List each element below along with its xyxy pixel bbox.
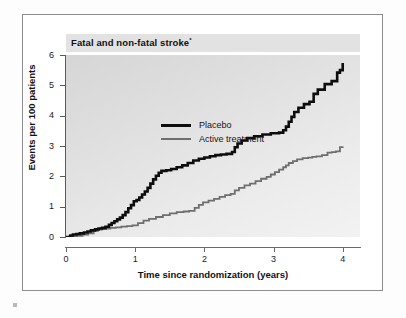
- y-tick-mark: [60, 207, 65, 208]
- chart-title: Fatal and non-fatal stroke*: [71, 37, 192, 48]
- x-tick-mark: [204, 247, 205, 252]
- x-tick-mark: [274, 247, 275, 252]
- series-line-placebo: [66, 63, 343, 237]
- x-tick-mark: [66, 247, 67, 252]
- x-axis-line: [65, 247, 361, 248]
- y-tick-mark: [60, 237, 65, 238]
- legend-label-placebo: Placebo: [199, 120, 232, 130]
- page-artifact-mark: [13, 303, 17, 307]
- x-axis-title: Time since randomization (years): [66, 269, 360, 280]
- x-tick-label: 1: [125, 255, 145, 264]
- x-tick-label: 2: [194, 255, 214, 264]
- y-tick-mark: [60, 55, 65, 56]
- x-tick-mark: [343, 247, 344, 252]
- legend-item-active-treatment: Active treatment: [161, 132, 311, 146]
- legend-swatch-active-treatment: [161, 138, 191, 140]
- x-tick-label: 0: [56, 255, 76, 264]
- y-tick-mark: [60, 85, 65, 86]
- y-tick-mark: [60, 146, 65, 147]
- y-tick-label: 6: [34, 51, 54, 60]
- y-tick-label: 4: [34, 111, 54, 120]
- series-group: [66, 63, 343, 237]
- chart-title-text: Fatal and non-fatal stroke: [71, 38, 189, 49]
- legend-swatch-placebo: [161, 124, 191, 127]
- legend-item-placebo: Placebo: [161, 118, 311, 132]
- y-tick-label: 1: [34, 202, 54, 211]
- x-tick-label: 4: [333, 255, 353, 264]
- series-line-active-treatment: [66, 147, 343, 237]
- y-tick-mark: [60, 116, 65, 117]
- y-tick-mark: [60, 176, 65, 177]
- plot-svg: [66, 55, 360, 237]
- x-tick-mark: [135, 247, 136, 252]
- chart-title-footnote-marker: *: [189, 37, 191, 43]
- plot-area: Placebo Active treatment: [66, 55, 360, 237]
- x-tick-label: 3: [264, 255, 284, 264]
- y-axis-line: [65, 55, 66, 238]
- y-tick-label: 0: [34, 233, 54, 242]
- legend-label-active-treatment: Active treatment: [199, 134, 264, 144]
- y-tick-label: 5: [34, 81, 54, 90]
- figure-container: Fatal and non-fatal stroke* Placebo Acti…: [0, 0, 406, 318]
- chart-legend: Placebo Active treatment: [161, 118, 311, 146]
- y-tick-label: 3: [34, 142, 54, 151]
- chart-title-band: Fatal and non-fatal stroke*: [66, 34, 360, 52]
- y-tick-label: 2: [34, 172, 54, 181]
